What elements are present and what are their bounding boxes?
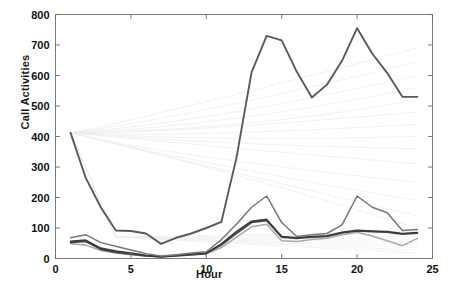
svg-text:100: 100 [31,222,49,234]
svg-text:600: 600 [31,70,49,82]
svg-text:400: 400 [31,131,49,143]
y-axis-label: Call Activities [19,37,31,147]
figure-caption [2,285,302,292]
svg-text:0: 0 [43,253,49,265]
figure-container: 01002003004005006007008000510152025 Call… [0,0,452,292]
svg-text:15: 15 [276,263,288,275]
svg-text:500: 500 [31,100,49,112]
line-chart: 01002003004005006007008000510152025 [0,0,452,292]
svg-text:300: 300 [31,161,49,173]
svg-text:200: 200 [31,192,49,204]
svg-text:800: 800 [31,9,49,21]
svg-text:700: 700 [31,39,49,51]
x-axis-label: Hour [196,268,222,280]
svg-text:25: 25 [426,263,438,275]
svg-text:20: 20 [351,263,363,275]
svg-text:5: 5 [128,263,134,275]
svg-text:0: 0 [52,263,58,275]
chart-background [0,0,452,292]
